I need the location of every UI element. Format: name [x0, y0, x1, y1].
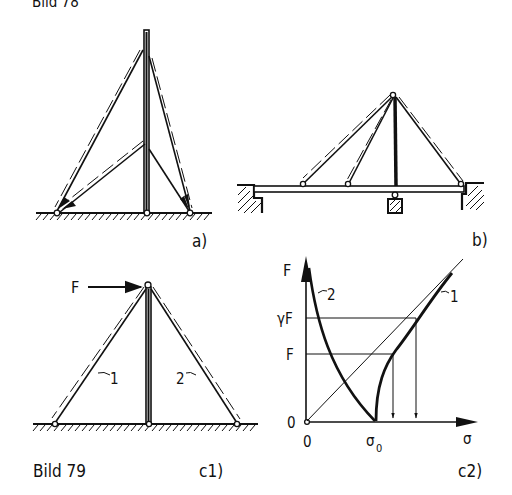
- pin-joint: [458, 181, 463, 186]
- hatch-line: [106, 214, 111, 220]
- hatch-line: [120, 214, 125, 220]
- hatch-line: [134, 214, 139, 220]
- curve-label-2: 2: [327, 286, 336, 304]
- y-tick-gammaF: γF: [277, 310, 293, 328]
- hatch-line: [68, 425, 73, 431]
- caption-top: Bild 78: [32, 0, 79, 11]
- mast-a: [144, 30, 149, 213]
- guy-label-2: 2: [176, 370, 185, 388]
- hatch-line: [127, 214, 132, 220]
- hatch-line: [71, 214, 76, 220]
- panel-label-a: a): [192, 231, 207, 251]
- hatch-line: [124, 425, 129, 431]
- hatch-line: [47, 425, 52, 431]
- pin-joint: [145, 282, 151, 288]
- curve-2: [309, 268, 375, 421]
- hatch-line: [162, 214, 167, 220]
- pin-joint: [345, 181, 350, 186]
- hatch-line: [75, 425, 80, 431]
- panel-a: a): [36, 30, 212, 251]
- hatch-line: [250, 425, 255, 431]
- pin-joint: [144, 210, 150, 216]
- hatch-line: [166, 425, 171, 431]
- hatch-line: [155, 214, 160, 220]
- ground-a: [36, 213, 212, 220]
- hatch-line: [85, 214, 90, 220]
- figure-canvas: Bild 78 a): [0, 0, 512, 495]
- hatch-line: [36, 214, 41, 220]
- hatch-line: [117, 425, 122, 431]
- x-axis-arrow-icon: [456, 417, 478, 427]
- sigma-symbol: σ: [366, 432, 375, 450]
- hatch-line: [204, 214, 209, 220]
- hatch-line: [197, 214, 202, 220]
- hatch-line: [176, 214, 181, 220]
- hatch-line: [113, 214, 118, 220]
- hatch-line: [194, 425, 199, 431]
- hatch-line: [222, 425, 227, 431]
- hatch-line: [110, 425, 115, 431]
- hatch-line: [43, 214, 48, 220]
- panel-label-c2: c2): [458, 461, 482, 481]
- y-tick-F: F: [286, 346, 294, 364]
- hatch-line: [173, 425, 178, 431]
- reference-line: [307, 259, 463, 421]
- hatch-line: [201, 425, 206, 431]
- force-label: F: [71, 278, 79, 297]
- pin-joint: [187, 210, 193, 216]
- hatch-line: [61, 425, 66, 431]
- hatch-line: [99, 214, 104, 220]
- pin-joint: [390, 92, 395, 97]
- hatch-line: [92, 214, 97, 220]
- right-wall-support: [462, 183, 484, 210]
- hatch-line: [89, 425, 94, 431]
- guy-label-1: 1: [110, 370, 119, 388]
- hatch-line: [138, 425, 143, 431]
- pin-joint: [146, 421, 151, 426]
- hatch-line: [82, 425, 87, 431]
- panel-b: b): [237, 92, 488, 250]
- hatch-line: [159, 425, 164, 431]
- pin-joint: [54, 210, 60, 216]
- y-axis-label: F: [283, 261, 291, 280]
- hatch-line: [208, 425, 213, 431]
- curve-1: [376, 273, 452, 421]
- mast-c1: [146, 287, 151, 424]
- hatch-line: [152, 425, 157, 431]
- sigma-subscript: 0: [376, 442, 382, 455]
- middle-support: [388, 192, 402, 213]
- hatch-line: [187, 425, 192, 431]
- x-tick-0: 0: [303, 433, 312, 451]
- curve-label-1: 1: [450, 288, 459, 306]
- pin-joint: [52, 421, 57, 426]
- hatch-line: [78, 214, 83, 220]
- y-tick-0: 0: [287, 414, 296, 432]
- hatch-line: [243, 425, 248, 431]
- hatch-line: [40, 425, 45, 431]
- hatch-line: [103, 425, 108, 431]
- ground-c1: [33, 424, 258, 431]
- hatch-line: [215, 425, 220, 431]
- hatch-line: [64, 214, 69, 220]
- x-axis-label: σ: [463, 430, 472, 448]
- panel-c1: F 1 2 Bild 79 c1): [33, 278, 258, 481]
- hatch-line: [180, 425, 185, 431]
- pin-joint: [300, 181, 305, 186]
- pin-joint: [234, 421, 239, 426]
- x-tick-sigma0: σ 0: [366, 432, 382, 455]
- cables-b: [303, 95, 463, 183]
- beam-b: [254, 186, 464, 192]
- guy-cables-a: [55, 50, 192, 212]
- panel-c2: 2 1 F γF F 0 0 σ 0 σ c2): [277, 256, 482, 481]
- hatch-line: [96, 425, 101, 431]
- panel-label-c1: c1): [199, 461, 223, 481]
- hatch-line: [131, 425, 136, 431]
- mast-b: [395, 97, 396, 186]
- panel-label-b: b): [472, 230, 488, 250]
- caption-bottom: Bild 79: [33, 461, 86, 481]
- hatch-line: [33, 425, 38, 431]
- hatch-line: [169, 214, 174, 220]
- hatch-line: [229, 425, 234, 431]
